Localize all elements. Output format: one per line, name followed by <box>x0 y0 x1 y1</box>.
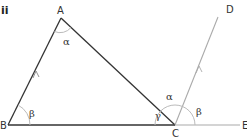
point-label-c: C <box>172 128 179 138</box>
arc-angle-a <box>55 28 72 33</box>
geometry-diagram: ii A B C D E α β γ α β <box>0 0 247 138</box>
angle-label-a-alpha: α <box>63 36 70 47</box>
part-label: ii <box>1 4 9 17</box>
point-label-d: D <box>226 4 234 15</box>
point-label-b: B <box>0 120 7 131</box>
point-label-e: E <box>242 120 247 131</box>
angle-label-c-alpha: α <box>166 91 173 102</box>
angle-label-c-beta: β <box>196 106 202 117</box>
side-ac <box>61 18 175 125</box>
angle-label-c-gamma: γ <box>155 110 161 121</box>
arc-angle-c-right <box>175 105 195 125</box>
angle-label-b-beta: β <box>29 108 35 119</box>
point-label-a: A <box>57 5 64 16</box>
